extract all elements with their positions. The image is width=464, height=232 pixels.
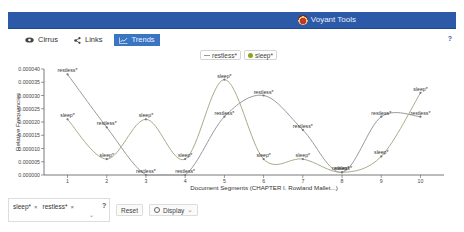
data-point-label: restless*: [97, 120, 117, 126]
series-line-0: [68, 74, 421, 175]
data-point: [145, 118, 147, 120]
x-tick-label: 4: [184, 178, 187, 184]
remove-term-icon[interactable]: ×: [71, 204, 75, 210]
brand[interactable]: Voyant Tools: [298, 14, 356, 26]
tab-cirrus[interactable]: Cirrus: [20, 34, 63, 46]
data-point: [302, 129, 304, 131]
help-button[interactable]: ?: [448, 35, 452, 42]
term-chip-label: sleep*: [13, 203, 31, 210]
data-point-label: sleep*: [217, 73, 231, 79]
data-point: [302, 158, 304, 160]
term-chip-label: restless*: [43, 203, 68, 210]
series-layer: [66, 73, 421, 176]
legend-label: sleep*: [255, 52, 273, 59]
y-tick-label: 0.000000: [18, 172, 40, 178]
term-chip-sleep: sleep* ×: [13, 203, 38, 210]
terms-input[interactable]: sleep* × restless* × ⌄ ?: [8, 198, 110, 222]
series-line-1: [68, 80, 421, 173]
x-tick-label: 10: [418, 178, 424, 184]
data-point: [145, 174, 147, 176]
y-axis-title: Relative Frequencies: [14, 93, 21, 151]
tab-trends[interactable]: Trends: [114, 34, 160, 46]
data-point-label: sleep*: [335, 165, 349, 171]
display-label: Display: [163, 207, 184, 214]
chart-legend: restless* sleep*: [200, 50, 277, 60]
data-point-label: restless*: [136, 168, 156, 174]
gear-icon: [154, 207, 160, 213]
chevron-down-icon[interactable]: ⌄: [89, 211, 94, 218]
x-tick-label: 3: [145, 178, 148, 184]
y-tick-label: 0.000010: [18, 146, 40, 152]
data-point-label: restless*: [175, 168, 195, 174]
tab-links-label: Links: [85, 34, 103, 46]
tab-cirrus-label: Cirrus: [38, 34, 58, 46]
y-tick-label: 0.000030: [18, 93, 40, 99]
data-point-label: restless*: [411, 110, 431, 116]
share-icon: [74, 37, 81, 44]
y-tick-label: 0.000035: [18, 79, 40, 85]
data-point-label: sleep*: [178, 152, 192, 158]
legend-dot-marker: [248, 53, 253, 58]
data-point-label: sleep*: [256, 152, 270, 158]
data-point: [66, 118, 68, 120]
data-point: [184, 174, 186, 176]
eye-icon: [25, 37, 34, 43]
y-tick-label: 0.000015: [18, 132, 40, 138]
legend-line-marker: [204, 55, 210, 56]
data-point: [106, 158, 108, 160]
bottom-toolbar: sleep* × restless* × ⌄ ? Reset Display ⌄: [8, 198, 198, 222]
data-point-label: restless*: [58, 67, 78, 73]
trends-chart: 0.0000000.0000050.0000100.0000150.000020…: [0, 60, 464, 196]
chevron-down-icon: ⌄: [187, 206, 193, 214]
data-point-label: restless*: [254, 89, 274, 95]
data-point: [66, 73, 68, 75]
data-point: [419, 116, 421, 118]
reset-label: Reset: [121, 207, 138, 214]
reset-button[interactable]: Reset: [116, 204, 143, 216]
data-point-label: sleep*: [60, 112, 74, 118]
x-tick-label: 8: [341, 178, 344, 184]
brand-label: Voyant Tools: [311, 14, 356, 26]
legend-item-sleep[interactable]: sleep*: [244, 50, 277, 60]
term-chip-restless: restless* ×: [43, 203, 74, 210]
data-point-label: sleep*: [374, 149, 388, 155]
legend-item-restless[interactable]: restless*: [200, 50, 241, 60]
data-point-label: sleep*: [413, 86, 427, 92]
remove-term-icon[interactable]: ×: [34, 204, 38, 210]
tool-tabs: Cirrus Links Trends: [20, 34, 160, 46]
data-point: [263, 158, 265, 160]
tab-trends-label: Trends: [132, 34, 155, 46]
x-axis-title: Document Segments (CHAPTER I. Rowland Ma…: [190, 184, 338, 191]
data-point: [380, 155, 382, 157]
x-tick-label: 9: [380, 178, 383, 184]
legend-label: restless*: [212, 52, 237, 59]
data-point: [223, 79, 225, 81]
data-point: [106, 126, 108, 128]
voyant-logo-icon: [298, 15, 308, 25]
data-point-label: restless*: [293, 123, 313, 129]
x-tick-label: 2: [105, 178, 108, 184]
display-button[interactable]: Display ⌄: [149, 204, 198, 216]
data-point-label: sleep*: [100, 152, 114, 158]
data-point-label: sleep*: [296, 152, 310, 158]
data-point: [341, 171, 343, 173]
terms-help-icon[interactable]: ?: [102, 202, 106, 209]
line-chart-icon: [119, 37, 128, 44]
data-point: [380, 116, 382, 118]
x-tick-label: 1: [66, 178, 69, 184]
data-point: [184, 158, 186, 160]
data-point: [223, 116, 225, 118]
y-tick-label: 0.000005: [18, 159, 40, 165]
data-point: [263, 94, 265, 96]
y-tick-label: 0.000040: [18, 66, 40, 72]
y-tick-label: 0.000020: [18, 119, 40, 125]
data-point-label: restless*: [214, 110, 234, 116]
tab-links[interactable]: Links: [69, 34, 108, 46]
header-bar: Voyant Tools: [8, 12, 456, 29]
data-point-label: restless*: [371, 110, 391, 116]
data-point: [419, 92, 421, 94]
y-tick-label: 0.000025: [18, 106, 40, 112]
point-labels-layer: restless*restless*restless*restless*rest…: [58, 67, 431, 174]
data-point-label: sleep*: [139, 112, 153, 118]
chart-axes: 0.0000000.0000050.0000100.0000150.000020…: [14, 66, 444, 191]
